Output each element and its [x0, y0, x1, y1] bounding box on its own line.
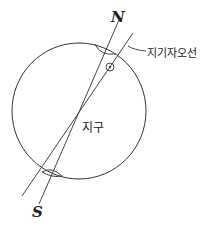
magnetic-pole-dot-icon: [109, 66, 111, 68]
earth-label: 지구: [82, 118, 104, 135]
south-label: S: [32, 203, 43, 221]
north-label: N: [111, 8, 125, 26]
earth-diagram: [0, 0, 216, 228]
label-leader-line: [128, 46, 146, 51]
geomagnetic-meridian-label: 지기자오선: [147, 44, 197, 60]
geomagnetic-axis-line: [22, 33, 133, 196]
